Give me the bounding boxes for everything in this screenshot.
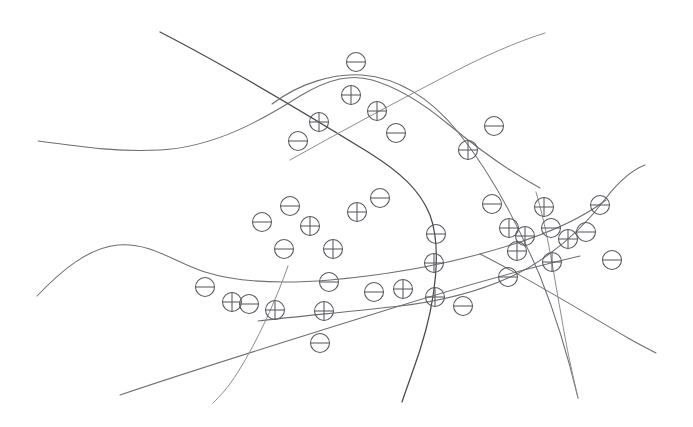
positive-marker [394, 280, 413, 299]
negative-marker [577, 223, 596, 242]
negative-marker [483, 195, 502, 214]
negative-marker [320, 273, 339, 292]
negative-marker [591, 196, 610, 215]
negative-marker [347, 53, 366, 72]
positive-marker [425, 254, 444, 273]
positive-marker [535, 198, 554, 217]
positive-marker [559, 230, 578, 249]
figure-canvas [0, 0, 693, 427]
pattern-distribution-figure [0, 0, 693, 427]
positive-marker [348, 203, 367, 222]
boundary-curve-bottom-centre-descender [213, 266, 288, 403]
boundary-curve-right-descending-tail [480, 254, 656, 353]
positive-marker [301, 217, 320, 236]
positive-marker [315, 302, 334, 321]
negative-marker [253, 213, 272, 232]
positive-marker [324, 240, 343, 259]
negative-marker [371, 189, 390, 208]
class-marker-layer [196, 53, 622, 353]
positive-marker [368, 102, 387, 121]
boundary-curve-right-steep-descender [536, 192, 578, 398]
negative-marker [289, 132, 308, 151]
negative-marker [275, 240, 294, 259]
boundary-curve-lower-right-descending-arc [258, 165, 645, 321]
negative-marker [387, 124, 406, 143]
negative-marker [281, 197, 300, 216]
positive-marker [310, 113, 329, 132]
positive-marker [508, 242, 527, 261]
positive-marker [426, 288, 445, 307]
boundary-curve-top-dark-diagonal [160, 32, 436, 402]
positive-marker [459, 141, 478, 160]
negative-marker [196, 278, 215, 297]
negative-marker [499, 268, 518, 287]
boundary-curve-top-right-rising-diagonal [290, 33, 545, 160]
positive-marker [223, 293, 242, 312]
negative-marker [240, 295, 259, 314]
negative-marker [603, 251, 622, 270]
positive-marker [516, 227, 535, 246]
negative-marker [454, 297, 473, 316]
boundary-curve-upper-left-s-curve [38, 77, 540, 188]
positive-marker [342, 86, 361, 105]
negative-marker [485, 117, 504, 136]
negative-marker [365, 283, 384, 302]
positive-marker [543, 253, 562, 272]
negative-marker [311, 334, 330, 353]
boundary-curve-layer [37, 32, 656, 403]
positive-marker [266, 301, 285, 320]
negative-marker [542, 219, 561, 238]
